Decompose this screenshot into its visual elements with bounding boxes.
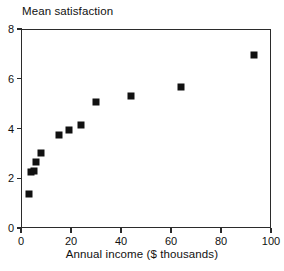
plot-area bbox=[21, 29, 271, 228]
y-tick-4 bbox=[17, 128, 22, 129]
data-point bbox=[30, 167, 37, 174]
y-tick-label-6: 6 bbox=[8, 73, 14, 85]
x-tick-80 bbox=[220, 228, 221, 233]
data-point bbox=[78, 121, 85, 128]
x-tick-60 bbox=[170, 228, 171, 233]
x-tick-20 bbox=[70, 228, 71, 233]
y-tick-8 bbox=[17, 28, 22, 29]
y-tick-label-0: 0 bbox=[8, 222, 14, 234]
x-tick-label-40: 40 bbox=[115, 235, 127, 247]
x-axis-label: Annual income ($ thousands) bbox=[0, 248, 284, 260]
data-point bbox=[178, 84, 185, 91]
y-tick-2 bbox=[17, 178, 22, 179]
x-tick-label-20: 20 bbox=[65, 235, 77, 247]
x-tick-label-100: 100 bbox=[262, 235, 280, 247]
data-point bbox=[33, 159, 40, 166]
data-point bbox=[93, 99, 100, 106]
x-tick-0 bbox=[20, 228, 21, 233]
y-tick-label-4: 4 bbox=[8, 123, 14, 135]
data-point bbox=[38, 150, 45, 157]
data-point bbox=[25, 191, 32, 198]
y-tick-label-8: 8 bbox=[8, 23, 14, 35]
data-point bbox=[65, 126, 72, 133]
x-tick-100 bbox=[270, 228, 271, 233]
y-tick-6 bbox=[17, 78, 22, 79]
x-tick-label-60: 60 bbox=[165, 235, 177, 247]
x-tick-label-80: 80 bbox=[215, 235, 227, 247]
x-tick-label-0: 0 bbox=[18, 235, 24, 247]
y-tick-label-2: 2 bbox=[8, 172, 14, 184]
chart-title: Mean satisfaction bbox=[22, 5, 113, 17]
data-point bbox=[55, 131, 62, 138]
data-point bbox=[250, 52, 257, 59]
scatter-chart-figure: Mean satisfaction 020406080100 02468 Ann… bbox=[0, 0, 284, 271]
x-tick-40 bbox=[120, 228, 121, 233]
data-point bbox=[128, 93, 135, 100]
y-tick-0 bbox=[17, 227, 22, 228]
